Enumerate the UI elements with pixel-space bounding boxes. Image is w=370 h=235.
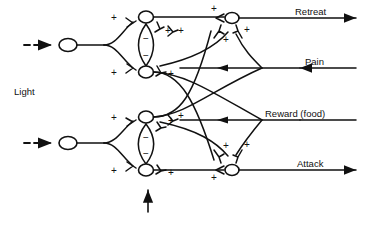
plus-sign-11: + [211,3,217,14]
plus-sign-14: + [211,172,217,183]
reward-label: Reward (food) [265,108,325,119]
upper-sensory-axon [77,22,133,68]
memory-cells-label-line1: Memory [108,233,188,235]
minus-sign-2: − [143,50,149,61]
attack-output-neuron [225,165,239,176]
lower-mem-top-axon [154,31,212,117]
plus-sign-15: + [223,140,229,151]
figure-canvas: + + + + + + + + + + + + + + + + − − − − … [0,0,370,235]
plus-sign-16: + [244,139,250,150]
lower-sensory-neuron [59,137,77,150]
plus-sign-8: + [168,115,174,126]
lower-sensory-axon [77,121,133,166]
synapse-attack-upper-left [214,150,224,163]
upper-memory-cell-top [139,11,154,23]
retreat-to-pain-fiber [236,34,262,68]
lower-memory-cell-bottom [139,164,154,176]
plus-sign-7: + [168,68,174,79]
minus-sign-4: − [143,148,149,159]
plus-sign-4: + [111,165,117,176]
plus-sign-9: + [178,110,184,121]
attack-label: Attack [297,158,323,169]
retreat-label: Retreat [295,6,326,17]
attack-feedback-fiber [160,122,228,156]
plus-sign-13: + [244,24,250,35]
lower-memory-cell-top [139,111,154,123]
plus-sign-3: + [111,112,117,123]
plus-sign-10: + [168,167,174,178]
retreat-feedback-fiber [160,32,228,66]
plus-sign-12: + [223,34,229,45]
plus-sign-5: + [165,25,171,36]
light-label: Light [14,86,35,97]
pain-label: Pain [305,56,324,67]
synapse-retreat-left [216,14,224,22]
upper-sensory-neuron [59,39,77,52]
retreat-output-neuron [225,13,239,24]
reward-arrowhead [217,117,228,124]
synapse-upper-feedback-a [155,22,164,32]
pain-arrowhead [217,65,228,72]
upper-memory-cell-bottom [139,66,154,78]
synapse-upper-top-input [126,18,136,27]
minus-sign-3: − [143,132,149,143]
plus-sign-2: + [111,67,117,78]
synapse-sign-group: + + + + + + + + + + + + + + + + − − − − [111,3,250,183]
plus-sign-6: + [178,25,184,36]
plus-sign-1: + [111,12,117,23]
minus-sign-1: − [143,33,149,44]
memory-cells-label: Memory cells [108,211,188,235]
